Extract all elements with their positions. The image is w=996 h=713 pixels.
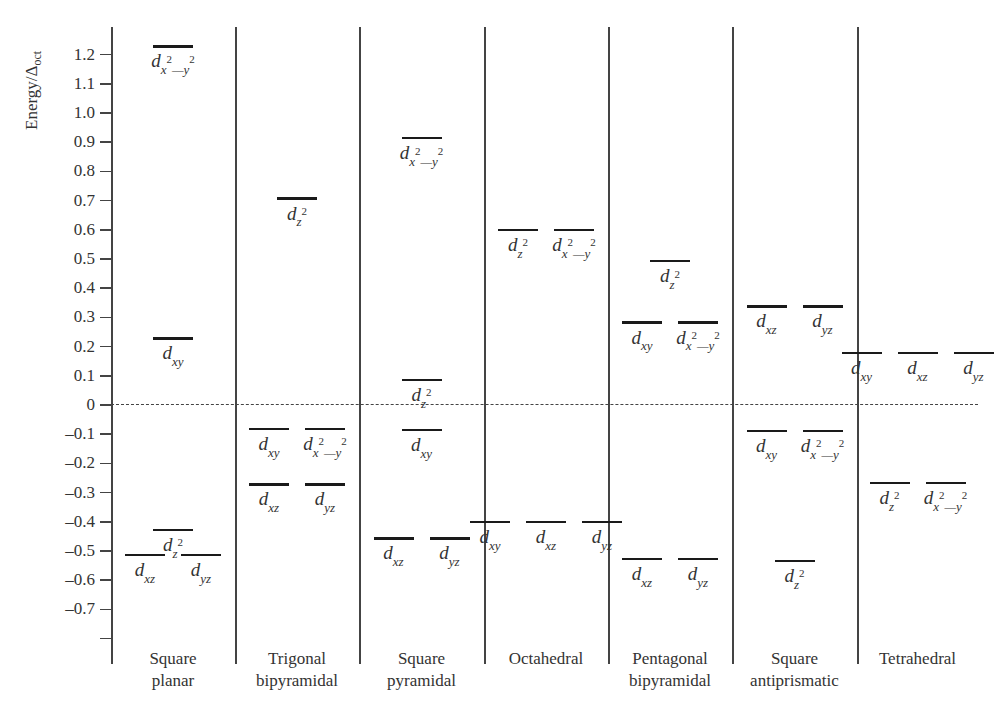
orbital-label: dxy bbox=[258, 433, 279, 459]
orbital-symbol: d bbox=[632, 563, 642, 584]
energy-level-bar bbox=[650, 260, 690, 263]
orbital-label: dx2—y2 bbox=[303, 433, 347, 459]
orbital-subscript: z2 bbox=[517, 246, 528, 261]
panel-label: Squareplanar bbox=[111, 648, 235, 692]
orbital-symbol: d bbox=[801, 435, 811, 456]
orbital-label: dyz bbox=[688, 563, 708, 589]
orbital-symbol: d bbox=[812, 310, 822, 331]
panel-label-line: antiprismatic bbox=[732, 670, 857, 692]
energy-level-bar bbox=[125, 554, 165, 557]
panel-label: Tetrahedral bbox=[857, 648, 978, 670]
y-tick-label: 0.9 bbox=[35, 132, 95, 152]
orbital-symbol: d bbox=[756, 310, 766, 331]
orbital-label: dx2—y2 bbox=[676, 327, 720, 353]
orbital-label: dz2 bbox=[879, 487, 899, 513]
orbital-label: dx2—y2 bbox=[801, 435, 845, 461]
orbital-subscript: z2 bbox=[889, 499, 900, 514]
orbital-symbol: d bbox=[660, 265, 670, 286]
orbital-label: dxy bbox=[162, 342, 183, 368]
y-tick-label: 1.0 bbox=[35, 103, 95, 123]
energy-level-bar bbox=[954, 352, 994, 355]
orbital-label: dz2 bbox=[508, 234, 528, 260]
y-tick bbox=[100, 550, 111, 552]
orbital-subscript: z2 bbox=[669, 277, 680, 292]
orbital-subscript: x2—y2 bbox=[810, 447, 844, 462]
orbital-label: dyz bbox=[592, 526, 612, 552]
orbital-subscript: x2—y2 bbox=[409, 154, 443, 169]
panel-label-line: Octahedral bbox=[484, 648, 608, 670]
y-tick-label: 0.5 bbox=[35, 249, 95, 269]
y-tick bbox=[100, 141, 111, 143]
panel-divider bbox=[857, 27, 859, 664]
y-tick-label: –0.4 bbox=[35, 512, 95, 532]
orbital-symbol: d bbox=[784, 565, 794, 586]
energy-level-bar bbox=[430, 537, 470, 540]
y-tick-label: –0.3 bbox=[35, 483, 95, 503]
y-tick bbox=[100, 287, 111, 289]
y-tick-label: –0.6 bbox=[35, 570, 95, 590]
orbital-symbol: d bbox=[162, 342, 172, 363]
y-tick-label: 0.6 bbox=[35, 220, 95, 240]
orbital-subscript: yz bbox=[601, 538, 612, 553]
orbital-subscript: xy bbox=[489, 538, 501, 553]
energy-level-bar bbox=[305, 428, 345, 431]
y-tick bbox=[100, 200, 111, 202]
y-tick-label: 0.3 bbox=[35, 307, 95, 327]
orbital-symbol: d bbox=[315, 488, 325, 509]
y-tick-label: 0 bbox=[35, 395, 95, 415]
orbital-symbol: d bbox=[631, 327, 641, 348]
panel-label-line: Pentagonal bbox=[608, 648, 732, 670]
panel-label-line: Trigonal bbox=[235, 648, 359, 670]
orbital-subscript: yz bbox=[973, 369, 984, 384]
energy-level-bar bbox=[803, 305, 843, 308]
energy-level-bar bbox=[249, 428, 289, 431]
orbital-label: dxz bbox=[756, 310, 776, 336]
y-tick-label: 0.4 bbox=[35, 278, 95, 298]
panel-divider bbox=[235, 27, 237, 664]
orbital-label: dz2 bbox=[287, 203, 307, 229]
energy-level-bar bbox=[153, 337, 193, 340]
energy-level-bar bbox=[747, 430, 787, 433]
orbital-symbol: d bbox=[287, 203, 297, 224]
orbital-symbol: d bbox=[258, 433, 268, 454]
orbital-subscript: yz bbox=[822, 322, 833, 337]
panel-label: Squarepyramidal bbox=[359, 648, 484, 692]
energy-level-bar bbox=[498, 229, 538, 232]
orbital-symbol: d bbox=[163, 534, 173, 555]
orbital-label: dx2—y2 bbox=[151, 50, 195, 76]
orbital-subscript: xz bbox=[641, 575, 652, 590]
energy-level-bar bbox=[678, 558, 718, 561]
orbital-symbol: d bbox=[259, 488, 269, 509]
orbital-symbol: d bbox=[924, 487, 934, 508]
y-tick bbox=[100, 638, 111, 640]
y-tick-label: 1.1 bbox=[35, 74, 95, 94]
orbital-symbol: d bbox=[383, 542, 393, 563]
panel-label-line: bipyramidal bbox=[608, 670, 732, 692]
zero-reference-line bbox=[111, 404, 978, 405]
energy-level-bar bbox=[402, 429, 442, 432]
panel-label: Squareantiprismatic bbox=[732, 648, 857, 692]
y-tick bbox=[100, 112, 111, 114]
orbital-symbol: d bbox=[411, 434, 421, 455]
orbital-symbol: d bbox=[592, 526, 602, 547]
panel-divider bbox=[608, 27, 610, 664]
orbital-label: dxy bbox=[631, 327, 652, 353]
y-tick bbox=[100, 463, 111, 465]
energy-level-bar bbox=[470, 521, 510, 524]
orbital-label: dz2 bbox=[660, 265, 680, 291]
orbital-symbol: d bbox=[411, 384, 421, 405]
panel-label-line: pyramidal bbox=[359, 670, 484, 692]
orbital-subscript: x2—y2 bbox=[161, 62, 195, 77]
panel-divider bbox=[732, 27, 734, 664]
orbital-subscript: xy bbox=[641, 338, 653, 353]
orbital-label: dxz bbox=[632, 563, 652, 589]
orbital-subscript: xz bbox=[545, 538, 556, 553]
y-tick-label: –0.2 bbox=[35, 453, 95, 473]
y-tick bbox=[100, 375, 111, 377]
orbital-symbol: d bbox=[756, 435, 766, 456]
panel-label: Trigonalbipyramidal bbox=[235, 648, 359, 692]
y-tick bbox=[100, 404, 111, 406]
y-tick bbox=[100, 229, 111, 231]
y-axis-line bbox=[111, 27, 113, 664]
orbital-label: dx2—y2 bbox=[400, 142, 444, 168]
